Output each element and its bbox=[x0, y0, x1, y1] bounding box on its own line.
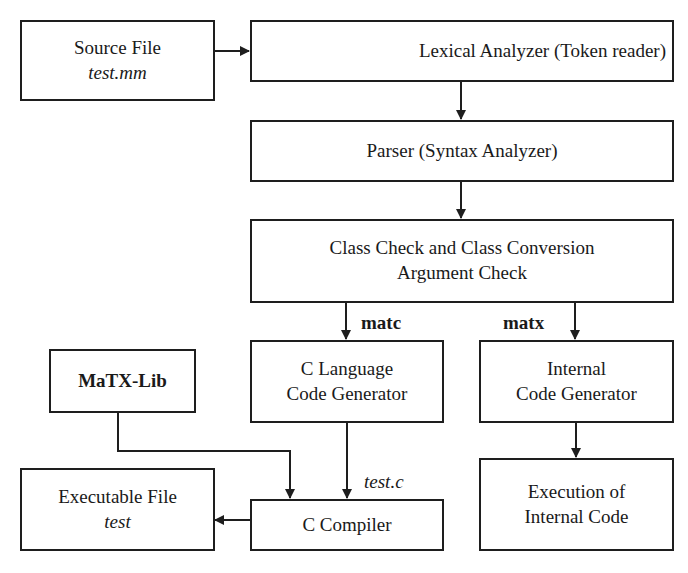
lexical-analyzer-label: Lexical Analyzer (Token reader) bbox=[419, 39, 666, 64]
node-source-file: Source File test.mm bbox=[20, 20, 215, 101]
node-lexical-analyzer: Lexical Analyzer (Token reader) bbox=[250, 20, 674, 82]
edge-label-test-c: test.c bbox=[364, 471, 404, 493]
internal-codegen-line2: Code Generator bbox=[516, 382, 637, 407]
source-file-name: test.mm bbox=[88, 61, 147, 86]
execution-line1: Execution of bbox=[528, 480, 626, 505]
edge-label-matx: matx bbox=[503, 312, 544, 334]
parser-label: Parser (Syntax Analyzer) bbox=[367, 139, 558, 164]
node-executable-file: Executable File test bbox=[20, 468, 215, 551]
edge-label-matc: matc bbox=[361, 312, 401, 334]
class-check-line1: Class Check and Class Conversion bbox=[330, 236, 595, 261]
c-codegen-line1: C Language bbox=[301, 357, 393, 382]
node-c-compiler: C Compiler bbox=[250, 499, 444, 551]
executable-file-label: Executable File bbox=[58, 485, 177, 510]
node-internal-code-generator: Internal Code Generator bbox=[479, 340, 674, 423]
node-c-code-generator: C Language Code Generator bbox=[250, 340, 444, 423]
node-parser: Parser (Syntax Analyzer) bbox=[250, 120, 674, 182]
execution-line2: Internal Code bbox=[525, 505, 629, 530]
c-compiler-label: C Compiler bbox=[302, 513, 391, 538]
source-file-label: Source File bbox=[74, 36, 161, 61]
executable-file-name: test bbox=[104, 510, 130, 535]
class-check-line2: Argument Check bbox=[397, 261, 527, 286]
c-codegen-line2: Code Generator bbox=[287, 382, 408, 407]
node-class-check: Class Check and Class Conversion Argumen… bbox=[250, 219, 674, 303]
node-matx-lib: MaTX-Lib bbox=[49, 349, 196, 413]
node-execution-internal-code: Execution of Internal Code bbox=[479, 458, 674, 551]
internal-codegen-line1: Internal bbox=[547, 357, 606, 382]
matx-lib-label: MaTX-Lib bbox=[78, 369, 167, 394]
